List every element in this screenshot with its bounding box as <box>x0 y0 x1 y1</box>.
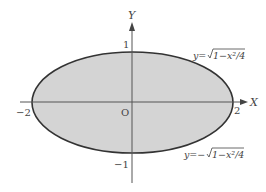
svg-text:1−x²/4: 1−x²/4 <box>213 50 245 61</box>
svg-text:1−x²/4: 1−x²/4 <box>212 149 244 160</box>
upper-curve-label: y= 1−x²/4 <box>192 49 245 61</box>
tick-y-neg: −1 <box>114 159 129 170</box>
tick-y-pos: 1 <box>123 39 129 50</box>
tick-x-neg: −2 <box>16 107 31 118</box>
y-axis-arrow-icon <box>129 22 135 31</box>
ellipse-diagram: Y X O −2 2 1 −1 y= 1−x²/4 y=− 1−x²/4 <box>0 0 266 192</box>
x-axis-arrow-icon <box>240 99 248 105</box>
svg-text:y=: y= <box>192 50 206 61</box>
y-axis-label: Y <box>128 9 137 22</box>
lower-curve-label: y=− 1−x²/4 <box>183 148 244 160</box>
svg-text:y=−: y=− <box>183 149 205 160</box>
x-axis-label: X <box>249 96 259 109</box>
tick-x-pos: 2 <box>234 105 240 116</box>
origin-label: O <box>121 107 129 118</box>
